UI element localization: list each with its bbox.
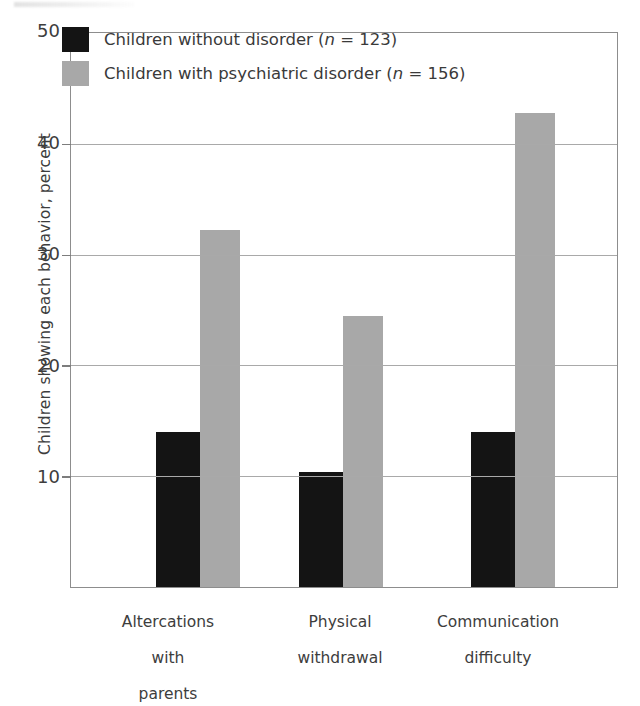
x-category-label-1-line2: with bbox=[88, 650, 248, 668]
gridline-40 bbox=[71, 144, 617, 145]
chart-legend: Children without disorder (n = 123) Chil… bbox=[62, 22, 465, 90]
y-tick-mark-40 bbox=[62, 144, 71, 145]
scan-artifact bbox=[14, 2, 134, 7]
legend-swatch-without-disorder bbox=[62, 27, 89, 52]
legend-label-with-disorder-prefix: Children with psychiatric disorder ( bbox=[104, 64, 393, 83]
plot-area bbox=[70, 32, 618, 588]
bar-group3-without-disorder bbox=[471, 432, 515, 587]
legend-label-with-disorder-italic-n: n bbox=[393, 64, 403, 83]
legend-entry-with-disorder: Children with psychiatric disorder (n = … bbox=[62, 56, 465, 90]
x-category-label-2-line2: withdrawal bbox=[270, 650, 410, 668]
legend-swatch-with-disorder bbox=[62, 61, 89, 86]
bar-group3-with-disorder bbox=[515, 113, 555, 587]
y-tick-label-40: 40 bbox=[14, 134, 60, 152]
y-tick-label-50: 50 bbox=[14, 22, 60, 40]
y-tick-mark-20 bbox=[62, 365, 71, 366]
legend-label-without-disorder-prefix: Children without disorder ( bbox=[104, 30, 325, 49]
legend-label-without-disorder: Children without disorder (n = 123) bbox=[104, 30, 397, 49]
legend-label-with-disorder: Children with psychiatric disorder (n = … bbox=[104, 64, 465, 83]
x-category-label-3-line2: difficulty bbox=[408, 650, 588, 668]
y-tick-label-20: 20 bbox=[14, 357, 60, 375]
legend-label-without-disorder-italic-n: n bbox=[325, 30, 335, 49]
y-tick-mark-30 bbox=[62, 255, 71, 256]
x-category-label-1-line3: parents bbox=[88, 686, 248, 704]
x-category-label-1-line1: Altercations bbox=[88, 614, 248, 632]
x-category-label-3: Communication difficulty bbox=[408, 596, 588, 686]
legend-entry-without-disorder: Children without disorder (n = 123) bbox=[62, 22, 465, 56]
x-category-label-2: Physical withdrawal bbox=[270, 596, 410, 686]
gridline-10 bbox=[71, 476, 617, 477]
x-category-label-1: Altercations with parents bbox=[88, 596, 248, 706]
bar-group1-with-disorder bbox=[200, 230, 240, 587]
x-category-label-3-line1: Communication bbox=[408, 614, 588, 632]
x-category-label-2-line1: Physical bbox=[270, 614, 410, 632]
y-tick-mark-10 bbox=[62, 476, 71, 477]
gridline-30 bbox=[71, 255, 617, 256]
bar-group2-without-disorder bbox=[299, 472, 343, 587]
bar-group1-without-disorder bbox=[156, 432, 200, 587]
gridline-20 bbox=[71, 365, 617, 366]
y-tick-label-10: 10 bbox=[14, 468, 60, 486]
legend-label-with-disorder-suffix: = 156) bbox=[403, 64, 465, 83]
bar-group2-with-disorder bbox=[343, 316, 383, 587]
legend-label-without-disorder-suffix: = 123) bbox=[335, 30, 397, 49]
y-tick-label-30: 30 bbox=[14, 245, 60, 263]
